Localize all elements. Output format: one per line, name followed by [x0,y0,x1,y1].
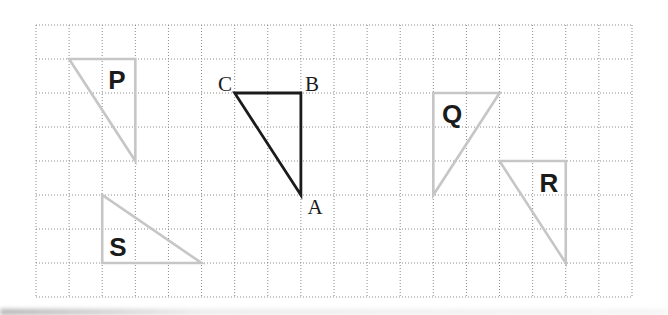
transformation-diagram: PQRSCBA [0,0,668,315]
triangle-ABC [235,93,301,195]
label-R: R [540,168,559,198]
label-S: S [109,232,126,262]
label-C: C [218,72,232,96]
label-A: A [307,195,323,219]
label-B: B [305,72,319,96]
geometry-worksheet-figure: PQRSCBA [0,0,668,315]
label-P: P [108,65,125,95]
label-Q: Q [442,99,462,129]
